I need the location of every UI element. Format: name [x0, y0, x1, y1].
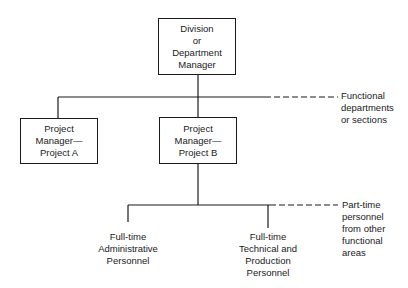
annotation-text: or sections [341, 114, 394, 126]
node-text: Personnel [88, 255, 168, 267]
project-b-manager-box: Project Manager— Project B [159, 117, 237, 164]
node-text: Full-time [228, 231, 308, 243]
project-a-manager-box: Project Manager— Project A [20, 118, 98, 164]
node-text: Personnel [228, 267, 308, 279]
node-text: Manager [178, 59, 216, 71]
node-text: Project [183, 123, 213, 135]
node-text: Project [44, 123, 74, 135]
annotation-text: functional [342, 235, 385, 247]
node-text: Project B [179, 147, 218, 159]
annotation-text: from other [342, 223, 385, 235]
admin-personnel-label: Full-time Administrative Personnel [88, 231, 168, 267]
node-text: Manager— [36, 135, 83, 147]
node-text: Manager— [175, 135, 222, 147]
node-text: Full-time [88, 231, 168, 243]
node-text: Project A [40, 147, 78, 159]
org-chart-diagram: Division or Department Manager Project M… [0, 0, 408, 288]
node-text: Division [180, 23, 213, 35]
annotation-text: areas [342, 247, 385, 259]
node-text: Department [172, 47, 222, 59]
node-text: Production [228, 255, 308, 267]
node-text: Technical and [228, 243, 308, 255]
tech-personnel-label: Full-time Technical and Production Perso… [228, 231, 308, 279]
annotation-text: departments [341, 102, 394, 114]
annotation-text: Functional [341, 90, 394, 102]
annotation-text: Part-time [342, 199, 385, 211]
part-time-personnel-annotation: Part-time personnel from other functiona… [342, 199, 385, 259]
node-text: or [193, 35, 201, 47]
division-manager-box: Division or Department Manager [158, 18, 236, 75]
functional-departments-annotation: Functional departments or sections [341, 90, 394, 126]
node-text: Administrative [88, 243, 168, 255]
annotation-text: personnel [342, 211, 385, 223]
